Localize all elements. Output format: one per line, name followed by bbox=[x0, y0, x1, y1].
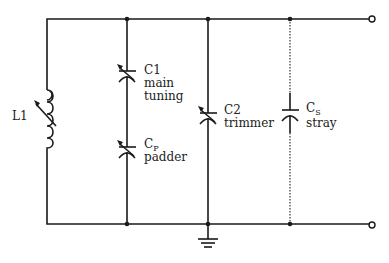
junction-node bbox=[125, 222, 130, 227]
label-c2-desc: trimmer bbox=[224, 116, 274, 130]
label-c1-desc1: main bbox=[144, 76, 174, 90]
label-l1: L1 bbox=[12, 109, 28, 123]
junction-node bbox=[125, 17, 130, 22]
terminal-bottom bbox=[369, 222, 375, 228]
junction-node bbox=[206, 17, 211, 22]
branch-c1-cp bbox=[117, 19, 136, 224]
capacitor-c2 bbox=[198, 19, 217, 224]
label-c2: C2 bbox=[224, 103, 241, 117]
label-c1: C1 bbox=[144, 63, 161, 77]
label-cs-desc: stray bbox=[306, 116, 337, 130]
label-cs: CS bbox=[306, 101, 321, 117]
ground-icon bbox=[198, 224, 218, 247]
label-c1-desc2: tuning bbox=[144, 89, 184, 103]
terminal-top bbox=[369, 16, 375, 22]
junction-node bbox=[288, 222, 293, 227]
circuit-diagram: L1 C1 main tuning CP padder C2 tri bbox=[0, 0, 389, 263]
capacitor-cs bbox=[282, 19, 299, 224]
junction-node bbox=[288, 17, 293, 22]
variable-arrow-icon bbox=[34, 100, 40, 107]
inductor-l1 bbox=[34, 90, 56, 158]
label-cp-desc: padder bbox=[144, 150, 187, 164]
